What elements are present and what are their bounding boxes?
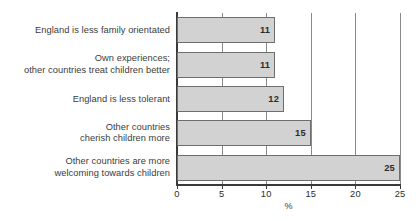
- category-label-group: England is less family orientated Own ex…: [0, 13, 174, 185]
- x-axis-title: %: [177, 201, 400, 211]
- x-tick-label: 10: [261, 189, 272, 199]
- bar-value-label: 15: [295, 128, 306, 138]
- x-tick-label: 15: [305, 189, 316, 199]
- category-label: Other countries cherish children more: [80, 122, 170, 145]
- x-axis-ticks: 0 5 10 15 20 25: [177, 185, 400, 201]
- bar: 11: [177, 17, 275, 43]
- plot-area: 11 11 12 15 25: [177, 13, 400, 185]
- x-tick-label: 0: [174, 189, 179, 199]
- x-tick-label: 25: [395, 189, 406, 199]
- category-label: Own experiences; other countries treat c…: [24, 53, 170, 76]
- bar-value-label: 12: [268, 94, 279, 104]
- x-tick-label: 5: [219, 189, 224, 199]
- category-label: Other countries are more welcoming towar…: [55, 156, 171, 179]
- bar-chart: England is less family orientated Own ex…: [0, 0, 419, 221]
- bar-value-label: 11: [260, 25, 270, 35]
- bar: 11: [177, 52, 275, 78]
- bar: 12: [177, 86, 284, 112]
- bar-value-label: 11: [260, 60, 270, 70]
- x-tick-label: 20: [350, 189, 361, 199]
- category-label: England is less family orientated: [35, 25, 170, 36]
- gridline-25: [400, 13, 401, 185]
- bar-value-label: 25: [384, 163, 395, 173]
- category-label: England is less tolerant: [73, 94, 170, 105]
- bar: 25: [177, 155, 400, 181]
- bar: 15: [177, 120, 311, 146]
